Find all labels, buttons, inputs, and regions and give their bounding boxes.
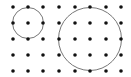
grid-dot	[57, 53, 61, 57]
grid-dot	[26, 5, 30, 9]
grid-dot	[119, 37, 123, 41]
grid-dot	[11, 21, 15, 25]
grid-dot	[57, 5, 61, 9]
grid-dot	[104, 21, 108, 25]
grid-dot	[88, 53, 92, 57]
grid-dot	[104, 53, 108, 57]
grid-dot	[104, 37, 108, 41]
grid-dot	[11, 37, 15, 41]
grid-dot	[11, 5, 15, 9]
grid-dot	[41, 37, 45, 41]
grid-dot	[88, 69, 92, 73]
grid-dot	[41, 5, 45, 9]
grid-dot	[88, 5, 92, 9]
grid-dot	[73, 53, 77, 57]
grid-dot	[73, 5, 77, 9]
grid-dot	[11, 53, 15, 57]
grid-dot	[73, 21, 77, 25]
grid-dot	[11, 69, 15, 73]
grid-dot	[41, 69, 45, 73]
grid-dot	[26, 21, 30, 25]
grid-dot	[73, 69, 77, 73]
dots-layer	[11, 5, 123, 73]
grid-dot	[26, 69, 30, 73]
grid-dot	[88, 37, 92, 41]
grid-dot	[57, 37, 61, 41]
grid-dot	[41, 53, 45, 57]
grid-dot	[26, 37, 30, 41]
grid-dot	[119, 21, 123, 25]
grid-dot	[119, 69, 123, 73]
grid-dot	[26, 53, 30, 57]
grid-dot	[104, 69, 108, 73]
grid-dot	[119, 53, 123, 57]
grid-dot	[41, 21, 45, 25]
grid-dot	[88, 21, 92, 25]
grid-dot	[104, 5, 108, 9]
dot-grid-diagram	[0, 0, 131, 77]
grid-dot	[57, 21, 61, 25]
grid-dot	[57, 69, 61, 73]
grid-dot	[119, 5, 123, 9]
grid-dot	[73, 37, 77, 41]
